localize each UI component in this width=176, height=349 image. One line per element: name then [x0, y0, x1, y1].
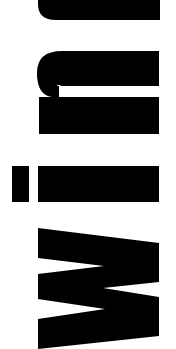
- rotated-wordmark: wind: [0, 0, 176, 349]
- i-stem: [38, 166, 159, 202]
- letter-d: [38, 0, 160, 20]
- wordmark-graphic: [0, 0, 176, 349]
- i-dot: [12, 166, 29, 202]
